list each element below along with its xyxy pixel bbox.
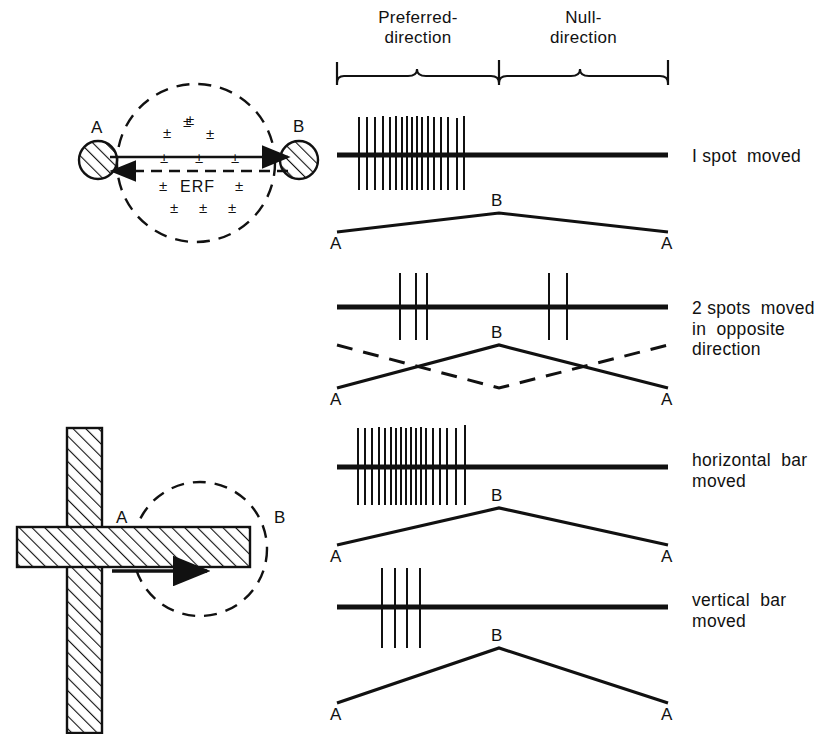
cross-label-a: A — [116, 508, 128, 528]
trace-4-label-a-right: A — [661, 705, 673, 725]
trace-row-3 — [337, 425, 668, 545]
erf-plusminus-symbol: ± — [195, 149, 203, 166]
erf-plusminus-symbol: ± — [170, 199, 178, 216]
erf-text: ERF — [180, 178, 215, 197]
trace-1-label-a-left: A — [330, 234, 342, 254]
trajectory-1 — [337, 213, 668, 232]
trace-4-label-b: B — [491, 626, 503, 646]
trace-2-label-a-left: A — [330, 390, 342, 410]
erf-plusminus-symbol: ± — [231, 149, 239, 166]
trace-4-label-a-left: A — [330, 705, 342, 725]
horizontal-bar — [17, 527, 250, 567]
erf-plusminus-symbol: ± — [163, 124, 171, 141]
header-preferred-direction: Preferred- direction — [337, 8, 499, 48]
trajectory-2-dashed — [337, 345, 668, 388]
trace-4-caption: vertical bar moved — [692, 590, 786, 631]
spot-a-circle — [79, 141, 117, 179]
header-null-direction: Null- direction — [499, 8, 668, 48]
trace-2-caption: 2 spots moved in opposite direction — [692, 298, 815, 360]
erf-plusminus-symbol: ± — [235, 177, 243, 194]
erf-label-b: B — [293, 117, 305, 137]
erf-plusminus-symbol: ± — [206, 125, 214, 142]
erf-plusminus-symbol: ± — [228, 199, 236, 216]
cross-label-b: B — [274, 508, 286, 528]
trace-row-1 — [337, 116, 668, 232]
trace-1-caption: I spot moved — [692, 146, 801, 167]
erf-plusminus-symbol: ± — [160, 149, 168, 166]
trace-3-label-a-right: A — [661, 547, 673, 567]
spot-b-circle — [280, 141, 318, 179]
trace-2-label-a-right: A — [661, 390, 673, 410]
erf-label-a: A — [91, 118, 103, 138]
trajectory-4 — [337, 648, 668, 703]
direction-brackets — [337, 60, 668, 85]
trace-2-label-b: B — [491, 323, 503, 343]
figure-container: Preferred- direction Null- direction A B… — [0, 0, 830, 734]
trace-3-label-b: B — [491, 486, 503, 506]
trace-3-caption: horizontal bar moved — [692, 450, 807, 491]
cross-bar-diagram — [17, 428, 267, 733]
bracket-null — [499, 69, 668, 83]
vertical-bar — [67, 428, 102, 733]
trace-1-label-a-right: A — [661, 234, 673, 254]
trajectory-2-solid — [337, 345, 668, 388]
erf-plusminus-symbol: ± — [199, 199, 207, 216]
erf-plusminus-symbol: ± — [186, 111, 194, 128]
bracket-preferred — [337, 69, 499, 83]
erf-plusminus-symbol: ± — [159, 177, 167, 194]
trajectory-3 — [337, 508, 668, 545]
trace-1-label-b: B — [491, 191, 503, 211]
trace-3-label-a-left: A — [330, 547, 342, 567]
